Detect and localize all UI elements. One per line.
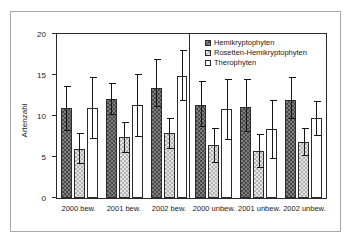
error-bar-cap-bottom — [212, 162, 219, 163]
legend-item[interactable]: Therophyten — [205, 58, 307, 68]
error-bar — [259, 134, 260, 168]
error-bar — [79, 133, 80, 163]
bar-slot — [164, 34, 175, 198]
error-bar — [137, 74, 138, 136]
error-bar-cap-bottom — [167, 148, 174, 149]
y-axis-tick-label: 20 — [37, 30, 46, 39]
error-bar-cap-top — [314, 101, 321, 102]
error-bar — [246, 79, 247, 132]
error-bar-cap-bottom — [135, 136, 142, 137]
x-axis-category-label: 2002 bew. — [146, 204, 191, 213]
x-axis-category-label: 2000 unbew. — [192, 204, 237, 213]
error-bar-cap-top — [64, 86, 71, 87]
y-axis-title: Artenzahl — [20, 104, 29, 138]
chart-figure: Artenzahl 05101520 2000 bew.2001 bew.200… — [10, 11, 341, 232]
error-bar — [304, 128, 305, 156]
error-bar-cap-bottom — [270, 158, 277, 159]
error-bar-cap-bottom — [257, 167, 264, 168]
error-bar — [156, 59, 157, 107]
error-bar-cap-bottom — [289, 118, 296, 119]
chart-legend: HemikryptophytenRosetten-Hemikryptophyte… — [202, 35, 311, 71]
error-bar — [169, 118, 170, 149]
error-bar-cap-bottom — [199, 126, 206, 127]
error-bar-cap-bottom — [122, 152, 129, 153]
error-bar-cap-top — [180, 50, 187, 51]
bar-group — [57, 34, 102, 198]
x-axis-category-label: 2001 bew. — [101, 204, 146, 213]
error-bar-cap-top — [212, 128, 219, 129]
bar-group — [102, 34, 147, 198]
error-bar-cap-top — [167, 118, 174, 119]
bar-slot — [61, 34, 72, 198]
legend-swatch-icon — [205, 40, 211, 46]
legend-swatch-icon — [205, 50, 211, 56]
bar-slot — [119, 34, 130, 198]
legend-swatch-icon — [205, 60, 211, 66]
error-bar — [92, 77, 93, 139]
bar-group — [147, 34, 192, 198]
error-bar-cap-bottom — [244, 131, 251, 132]
error-bar — [272, 100, 273, 159]
error-bar-cap-bottom — [314, 135, 321, 136]
bar-slot — [177, 34, 188, 198]
error-bar — [291, 77, 292, 120]
error-bar-cap-top — [109, 83, 116, 84]
bar-slot — [151, 34, 162, 198]
x-axis-category-label: 2001 unbew. — [237, 204, 282, 213]
error-bar — [111, 83, 112, 115]
y-axis-tick-label: 0 — [42, 194, 46, 203]
error-bar-cap-top — [225, 79, 232, 80]
legend-item-label: Hemikryptophyten — [214, 38, 274, 48]
error-bar-cap-top — [154, 59, 161, 60]
error-bar-cap-top — [270, 100, 277, 101]
error-bar-cap-bottom — [180, 100, 187, 101]
legend-item[interactable]: Rosetten-Hemikryptophyten — [205, 48, 307, 58]
legend-item-label: Therophyten — [214, 58, 256, 68]
legend-item[interactable]: Hemikryptophyten — [205, 38, 307, 48]
error-bar — [124, 122, 125, 153]
error-bar-cap-bottom — [90, 138, 97, 139]
bar-slot — [106, 34, 117, 198]
error-bar — [66, 86, 67, 131]
error-bar-cap-top — [77, 133, 84, 134]
error-bar-cap-top — [257, 134, 264, 135]
error-bar — [201, 81, 202, 128]
bar-slot — [87, 34, 98, 198]
error-bar-cap-bottom — [154, 106, 161, 107]
bar-slot — [132, 34, 143, 198]
error-bar — [214, 128, 215, 162]
legend-item-label: Rosetten-Hemikryptophyten — [214, 48, 307, 58]
error-bar-cap-top — [135, 74, 142, 75]
x-axis-category-label: 2002 unbew. — [282, 204, 327, 213]
error-bar — [182, 50, 183, 101]
bar-slot — [74, 34, 85, 198]
error-bar-cap-top — [199, 81, 206, 82]
error-bar-cap-bottom — [225, 139, 232, 140]
error-bar-cap-top — [289, 77, 296, 78]
error-bar-cap-bottom — [64, 130, 71, 131]
x-axis-category-label: 2000 bew. — [56, 204, 101, 213]
error-bar-cap-top — [122, 122, 129, 123]
x-axis-category-labels: 2000 bew.2001 bew.2002 bew.2000 unbew.20… — [56, 204, 327, 213]
error-bar-cap-bottom — [302, 155, 309, 156]
y-axis-tick-label: 15 — [37, 71, 46, 80]
error-bar-cap-top — [244, 79, 251, 80]
error-bar — [316, 101, 317, 135]
bar-slot — [311, 34, 322, 198]
error-bar-cap-top — [302, 128, 309, 129]
error-bar-cap-bottom — [77, 163, 84, 164]
error-bar-cap-bottom — [109, 114, 116, 115]
error-bar-cap-top — [90, 77, 97, 78]
y-axis-tick-label: 5 — [42, 153, 46, 162]
y-axis-tick-label: 10 — [37, 112, 46, 121]
error-bar — [227, 79, 228, 140]
